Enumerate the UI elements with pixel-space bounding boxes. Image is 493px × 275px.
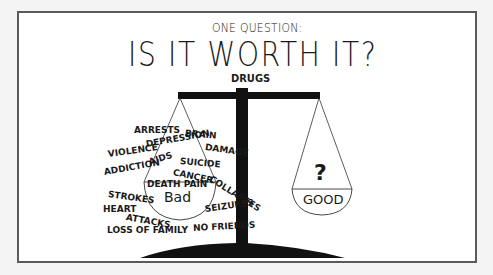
bad-word: LOSS OF FAMILY [107,226,188,235]
beam-label: DRUGS [231,73,270,84]
page-title: IS IT WORTH IT? [128,38,378,71]
scale-beam [178,92,320,99]
question-mark-icon: ? [314,162,327,184]
left-pan-label: Bad [164,190,191,204]
bad-word: DEATH PAIN [147,180,207,189]
right-pan-label: GOOD [303,193,344,206]
subtitle: ONE QUESTION: [212,22,302,34]
scene: ONE QUESTION: IS IT WORTH IT? DRUGS ARRE… [0,0,493,275]
